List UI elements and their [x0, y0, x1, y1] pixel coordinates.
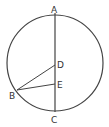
segment-bd [17, 65, 55, 90]
label-e: E [57, 80, 63, 90]
label-c: C [51, 115, 57, 125]
label-b: B [9, 91, 15, 101]
segment-be [17, 84, 55, 90]
label-a: A [51, 5, 58, 15]
geometry-diagram: A B C D E [0, 0, 109, 127]
label-d: D [57, 60, 64, 70]
